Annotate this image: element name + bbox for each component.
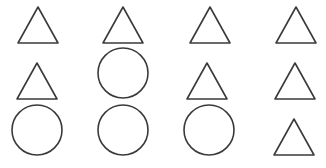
circle-shape	[184, 105, 234, 155]
circle-shape	[12, 105, 62, 155]
triangle-shape	[103, 7, 143, 43]
triangle-shape	[274, 119, 314, 155]
triangle-shape	[275, 63, 315, 99]
triangle-shape	[187, 63, 227, 99]
triangle-shape	[18, 7, 58, 43]
shapes-group	[12, 7, 316, 155]
circle-shape	[98, 105, 148, 155]
triangle-shape	[276, 7, 316, 43]
triangle-shape	[190, 7, 230, 43]
shape-grid-figure	[0, 0, 326, 168]
circle-shape	[98, 48, 148, 98]
triangle-shape	[17, 63, 57, 99]
